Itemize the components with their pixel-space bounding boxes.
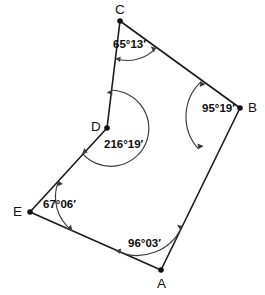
edge-c-b bbox=[120, 21, 240, 108]
vertex-dot-c bbox=[117, 18, 123, 24]
angle-label-c: 65°13′ bbox=[113, 39, 146, 51]
vertex-label-a: A bbox=[157, 277, 166, 291]
vertex-dot-a bbox=[158, 267, 164, 273]
vertex-label-e: E bbox=[13, 205, 22, 219]
vertex-dot-b bbox=[237, 105, 243, 111]
vertex-dot-d bbox=[104, 125, 110, 131]
vertex-dot-e bbox=[27, 209, 33, 215]
vertex-label-c: C bbox=[115, 3, 125, 17]
angle-label-a: 96°03′ bbox=[128, 238, 161, 250]
edge-b-a bbox=[161, 108, 240, 270]
arc-arrow-d-start bbox=[107, 90, 113, 95]
angle-arc-b bbox=[186, 82, 205, 150]
angle-label-d: 216°19′ bbox=[104, 139, 143, 151]
vertex-label-d: D bbox=[91, 120, 101, 134]
angle-label-e: 67°06′ bbox=[43, 199, 76, 211]
arc-arrow-a-start bbox=[116, 248, 121, 254]
geometry-diagram: C B D E A 65°13′ 95°19′ 216°19′ 67°06′ 9… bbox=[0, 0, 265, 295]
vertex-label-b: B bbox=[248, 101, 257, 115]
arc-arrow-a-end bbox=[177, 225, 182, 231]
angle-label-b: 95°19′ bbox=[202, 103, 235, 115]
